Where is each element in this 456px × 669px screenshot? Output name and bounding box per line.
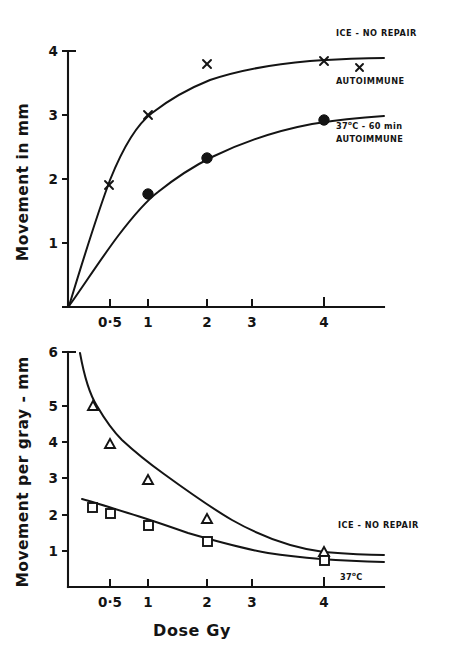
bottom-x-tick-label-1: 1: [143, 594, 152, 610]
top-x-tick-labels: 0·5 1 2 3 4: [98, 314, 329, 330]
top-x-tick-label-1: 1: [143, 314, 152, 330]
marker-dot-point: [143, 189, 153, 199]
marker-square-point: [106, 509, 115, 518]
bottom-legend-ice-label: ICE - NO REPAIR: [338, 520, 419, 530]
bottom-x-tick-label-3: 3: [247, 594, 256, 610]
bottom-y-tick-label-1: 1: [49, 543, 58, 559]
bottom-x-axis-title: Dose Gy: [153, 621, 231, 640]
marker-dot-point: [319, 115, 329, 125]
bottom-x-tick-label-05: 0·5: [98, 594, 122, 610]
top-legend-ice-label: ICE - NO REPAIR: [336, 28, 417, 38]
top-y-tick-label-1: 1: [49, 235, 58, 251]
marker-triangle-point: [143, 475, 153, 484]
top-y-tick-label-2: 2: [49, 171, 58, 187]
top-legend-37c-label: 37oC - 60 min: [336, 120, 402, 131]
chart-panel-top: 1 2 3 4 0·5 1 2 3 4 Movement in: [0, 0, 456, 340]
top-series-37c-curve: [69, 116, 384, 306]
bottom-series-ice-markers: [88, 401, 329, 556]
top-series-ice-curve: [69, 58, 384, 306]
marker-square-point: [320, 556, 329, 565]
marker-square-point: [144, 521, 153, 530]
top-legend-37c: 37oC - 60 min AUTOIMMUNE: [336, 120, 403, 144]
marker-triangle-point: [88, 401, 98, 410]
marker-x-point: [203, 60, 211, 68]
bottom-x-tick-label-4: 4: [319, 594, 328, 610]
bottom-y-tick-label-4: 4: [49, 434, 58, 450]
bottom-x-tick-labels: 0·5 1 2 3 4: [98, 594, 329, 610]
top-series-ice-markers: [105, 57, 328, 189]
bottom-y-tick-labels: 1 2 3 4 5 6: [49, 344, 58, 559]
top-y-tick-labels: 1 2 3 4: [49, 43, 58, 251]
top-y-axis-title: Movement in mm: [14, 103, 32, 261]
top-y-tick-label-3: 3: [49, 107, 58, 123]
top-series-37c-markers: [143, 115, 329, 199]
bottom-y-tick-label-3: 3: [49, 470, 58, 486]
top-x-tick-label-2: 2: [202, 314, 211, 330]
top-y-tick-label-4: 4: [49, 43, 58, 59]
top-legend-ice: ICE - NO REPAIR AUTOIMMUNE: [336, 28, 417, 86]
marker-dot-point: [202, 153, 212, 163]
marker-triangle-point: [202, 514, 212, 523]
bottom-x-tick-label-2: 2: [202, 594, 211, 610]
top-x-tick-label-4: 4: [319, 314, 328, 330]
bottom-y-axis-title: Movement per gray - mm: [14, 356, 32, 587]
top-x-ticks: [110, 297, 324, 307]
bottom-x-ticks: [110, 577, 324, 587]
bottom-y-tick-label-2: 2: [49, 507, 58, 523]
top-legend-37c-sublabel: AUTOIMMUNE: [336, 134, 403, 144]
marker-square-point: [203, 537, 212, 546]
top-legend-ice-sublabel: AUTOIMMUNE: [336, 76, 405, 86]
top-chart-svg: 1 2 3 4 0·5 1 2 3 4 Movement in: [0, 0, 456, 340]
bottom-chart-svg: 1 2 3 4 5 6 0·5 1 2 3 4 Movement: [0, 340, 456, 669]
marker-square-point: [88, 503, 97, 512]
top-x-tick-label-3: 3: [247, 314, 256, 330]
marker-triangle-point: [319, 547, 329, 556]
top-x-tick-label-05: 0·5: [98, 314, 122, 330]
bottom-y-tick-label-5: 5: [49, 398, 58, 414]
marker-triangle-point: [105, 439, 115, 448]
chart-panel-bottom: 1 2 3 4 5 6 0·5 1 2 3 4 Movement: [0, 340, 456, 669]
figure-root: 1 2 3 4 0·5 1 2 3 4 Movement in: [0, 0, 456, 669]
bottom-legend-37c-label: 37oC: [340, 571, 363, 582]
bottom-y-tick-label-6: 6: [49, 344, 58, 360]
top-legend-ice-marker: [356, 64, 363, 71]
